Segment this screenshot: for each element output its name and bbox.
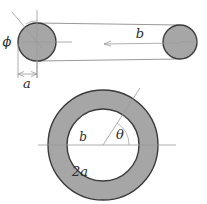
plan-view-group: b θ 2a xyxy=(38,88,176,200)
torus-geometry-figure: ϕ b a xyxy=(0,0,207,204)
label-b-plan-view: b xyxy=(79,130,87,144)
label-theta: θ xyxy=(116,127,124,142)
label-two-a: 2a xyxy=(71,164,88,179)
side-view-group: ϕ b a xyxy=(3,10,197,91)
figure-canvas: ϕ b a xyxy=(0,0,207,204)
label-b-side-view: b xyxy=(136,26,144,41)
label-a: a xyxy=(23,76,31,91)
b-dimension-arrowhead xyxy=(104,41,111,46)
lower-tangent-line xyxy=(37,59,180,61)
upper-tangent-line xyxy=(37,23,180,25)
label-phi: ϕ xyxy=(3,34,12,49)
